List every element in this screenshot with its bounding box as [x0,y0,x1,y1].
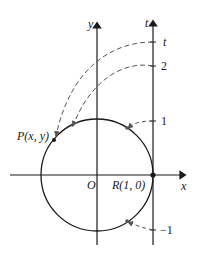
y-axis-label: y [88,18,93,30]
point-R [150,172,155,177]
unit-circle-diagram: y t x O t 2 1 −1 P(x, y) R(1, 0) [0,0,197,264]
wrap-curve-1 [128,121,153,128]
t-axis-label: t [145,17,148,29]
point-P [52,138,56,142]
point-1-on-circle [125,126,129,130]
point-P-label: P(x, y) [17,130,49,142]
point-neg1-on-circle [125,219,129,223]
point-R-label: R(1, 0) [112,179,145,191]
t-tick-label: t [163,36,166,48]
wrap-curve-2 [73,65,153,126]
tick-2-label: 2 [161,60,167,72]
wrap-curve-t [56,42,153,136]
tick-1-label: 1 [161,115,167,127]
point-2-on-circle [71,124,74,127]
tick-neg1-label: −1 [160,224,173,236]
origin-label: O [87,179,96,191]
wrap-curve-neg1 [128,222,153,230]
x-axis-label: x [181,180,186,192]
